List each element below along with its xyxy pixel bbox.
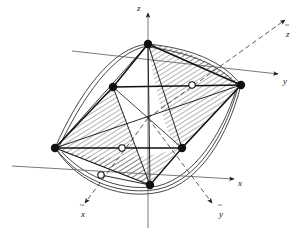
node-corner-top[interactable]: [144, 40, 152, 48]
node-midside-lower-mid[interactable]: [119, 145, 125, 151]
node-midside-upper-right[interactable]: [189, 82, 195, 88]
axis-label-z-tilde: z: [285, 29, 290, 39]
node-corner-mid-right[interactable]: [178, 144, 186, 152]
geometry-figure: z y x ~ z ~ y ~ x: [0, 0, 304, 236]
node-midside-lower-left[interactable]: [98, 172, 104, 178]
node-corner-far-left[interactable]: [51, 144, 59, 152]
axis-label-z: z: [136, 3, 141, 13]
coordinate-surface-diagram: z y x ~ z ~ y ~ x: [0, 0, 304, 236]
node-corner-bottom[interactable]: [146, 181, 154, 189]
node-corner-left[interactable]: [109, 83, 117, 91]
axis-label-y-tilde: y: [218, 209, 223, 219]
axis-label-x: x: [237, 178, 242, 188]
axis-label-x-tilde: x: [80, 209, 85, 219]
axis-label-y: y: [282, 76, 287, 86]
node-corner-right[interactable]: [237, 81, 245, 89]
